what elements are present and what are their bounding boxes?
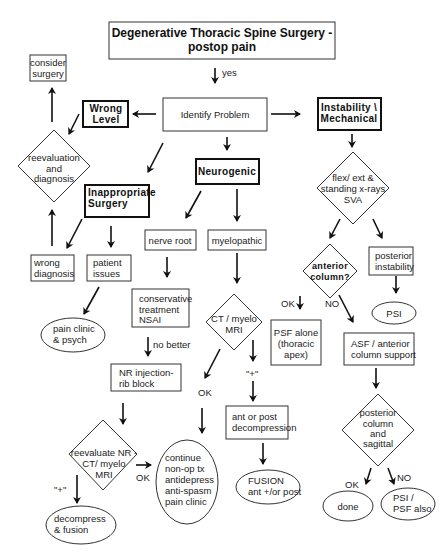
flowchart: Degenerative Thoracic Spine Surgery - po… <box>0 0 444 560</box>
label-ok-reevaluate: OK <box>136 472 150 483</box>
svg-text:consider: consider <box>30 57 66 68</box>
svg-text:ant +/or post: ant +/or post <box>248 486 301 497</box>
svg-text:CT/ myelo: CT/ myelo <box>82 458 125 469</box>
svg-text:Neurogenic: Neurogenic <box>198 166 256 177</box>
svg-text:Mechanical: Mechanical <box>321 113 378 124</box>
svg-text:flex/ ext &: flex/ ext & <box>332 172 374 183</box>
label-yes: yes <box>222 67 237 78</box>
svg-text:CT / myelo: CT / myelo <box>211 313 257 324</box>
svg-text:anterior: anterior <box>312 261 348 271</box>
arrow-to-inappropriate-surgery <box>148 143 163 172</box>
svg-text:non-op tx: non-op tx <box>165 463 205 474</box>
svg-text:pain clinic: pain clinic <box>53 323 95 334</box>
svg-text:Wrong: Wrong <box>90 103 123 114</box>
svg-text:PSF also: PSF also <box>393 503 432 514</box>
svg-text:anti-spasm: anti-spasm <box>165 485 212 496</box>
svg-text:NSAI: NSAI <box>139 314 161 325</box>
svg-text:diagnosis: diagnosis <box>34 173 74 184</box>
fusion-ellipse: FUSION ant +/or post <box>236 470 301 504</box>
arrow-to-pain-clinic <box>84 287 99 314</box>
svg-text:& fusion: & fusion <box>54 524 88 535</box>
svg-text:antidepress: antidepress <box>165 474 214 485</box>
arrow-anterior-no <box>339 295 353 322</box>
svg-text:NR injection-: NR injection- <box>119 367 173 378</box>
svg-text:sagittal: sagittal <box>363 438 393 449</box>
patient-issues-box: patient issues <box>87 255 131 281</box>
label-no-better: no better <box>153 339 191 350</box>
neurogenic-box: Neurogenic <box>196 159 259 184</box>
svg-text:column?: column? <box>310 272 350 282</box>
nr-injection-box: NR injection- rib block <box>111 364 181 391</box>
label-no-anterior: NO <box>325 298 339 309</box>
psi-ellipse: PSI <box>372 302 416 324</box>
svg-text:decompress: decompress <box>54 513 106 524</box>
svg-text:Inappropriate: Inappropriate <box>88 187 156 198</box>
decompress-fusion-ellipse: decompress & fusion <box>46 506 116 544</box>
arrow-to-wrong-diagnosis <box>67 219 82 248</box>
svg-text:posterior: posterior <box>360 407 397 418</box>
label-ok-anterior: OK <box>281 298 295 309</box>
myelopathic-box: myelopathic <box>208 230 266 250</box>
svg-text:ant or post: ant or post <box>232 411 277 422</box>
label-no-posterior: NO <box>397 472 411 483</box>
svg-text:myelopathic: myelopathic <box>212 235 263 246</box>
svg-text:FUSION: FUSION <box>248 475 284 486</box>
svg-text:reevaluate NR -: reevaluate NR - <box>71 447 138 458</box>
arrow-to-anterior-column <box>330 219 340 238</box>
svg-text:Level: Level <box>92 114 119 125</box>
svg-text:done: done <box>337 501 358 512</box>
psi-psf-also-ellipse: PSI / PSF also <box>381 488 435 520</box>
svg-text:decompression: decompression <box>232 422 296 433</box>
label-ok-ct: OK <box>198 387 212 398</box>
svg-text:PSI /: PSI / <box>393 492 414 503</box>
svg-text:PSF alone: PSF alone <box>274 327 318 338</box>
svg-text:column support: column support <box>351 349 416 360</box>
svg-text:continue: continue <box>165 452 201 463</box>
identify-problem-box: Identify Problem <box>163 98 267 131</box>
title-line-2: postop pain <box>188 40 256 54</box>
title-box: Degenerative Thoracic Spine Surgery - po… <box>109 22 335 59</box>
inappropriate-surgery-box: Inappropriate Surgery <box>85 185 156 217</box>
svg-text:MRI: MRI <box>95 469 112 480</box>
flex-ext-diamond: flex/ ext & standing x-rays SVA <box>317 152 389 224</box>
asf-anterior-box: ASF / anterior column support <box>344 333 416 365</box>
svg-text:pain clinic: pain clinic <box>165 496 207 507</box>
label-ok-posterior: OK <box>345 479 359 490</box>
svg-text:patient: patient <box>93 257 122 268</box>
anterior-column-diamond: anterior column? <box>303 244 357 298</box>
svg-text:MRI: MRI <box>225 324 242 335</box>
svg-text:surgery: surgery <box>32 68 64 79</box>
arrow-to-nerve-root <box>186 191 201 218</box>
reevaluation-diamond: reevaluation and diagnosis <box>18 130 90 202</box>
posterior-instability-box: posterior instability <box>369 247 414 275</box>
identify-problem-label: Identify Problem <box>181 109 250 120</box>
nerve-root-box: nerve root <box>145 230 196 250</box>
svg-text:reevaluation: reevaluation <box>28 152 80 163</box>
svg-text:PSI: PSI <box>386 308 401 319</box>
instability-mechanical-box: Instability \ Mechanical <box>318 98 381 130</box>
arrow-posterior-ok <box>366 468 371 484</box>
svg-text:& psych: & psych <box>53 334 87 345</box>
arrow-ct-ok <box>205 349 220 378</box>
ant-post-decompression-box: ant or post decompression <box>226 406 296 439</box>
title-line-1: Degenerative Thoracic Spine Surgery - <box>112 26 333 40</box>
svg-text:(thoracic: (thoracic <box>278 338 315 349</box>
svg-text:diagnosis: diagnosis <box>34 268 74 279</box>
svg-text:ASF / anterior: ASF / anterior <box>351 338 410 349</box>
svg-text:conservative: conservative <box>139 293 192 304</box>
svg-text:rib block: rib block <box>119 378 155 389</box>
svg-text:nerve root: nerve root <box>149 235 192 246</box>
svg-text:Instability \: Instability \ <box>321 102 377 113</box>
svg-text:instability: instability <box>375 261 414 272</box>
svg-text:SVA: SVA <box>344 194 363 205</box>
svg-text:standing x-rays: standing x-rays <box>321 183 386 194</box>
svg-text:apex): apex) <box>284 349 308 360</box>
svg-text:posterior: posterior <box>375 250 412 261</box>
label-plus-reevaluate: "+" <box>54 484 66 495</box>
consider-surgery-box: consider surgery <box>30 55 66 81</box>
arrow-posterior-no <box>388 468 394 484</box>
done-ellipse: done <box>323 491 373 521</box>
svg-text:Surgery: Surgery <box>88 198 128 209</box>
svg-text:wrong: wrong <box>33 257 60 268</box>
posterior-sagittal-diamond: posterior column and sagittal <box>342 394 414 466</box>
